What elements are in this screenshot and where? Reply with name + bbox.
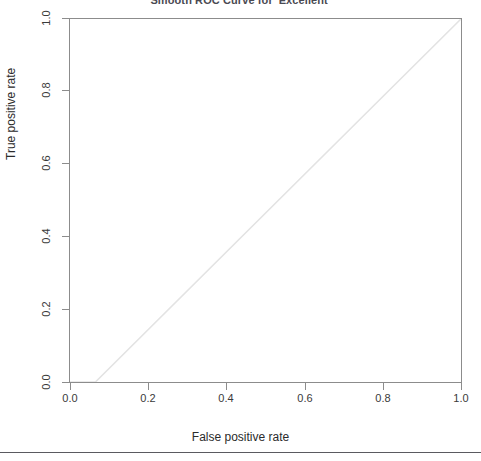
x-tick-5 (461, 383, 462, 390)
y-tick-5 (62, 18, 69, 19)
y-tick-label-2: 0.4 (40, 228, 52, 243)
bottom-divider (0, 452, 481, 453)
roc-curve-plot (70, 19, 461, 382)
x-tick-0 (70, 383, 71, 390)
y-tick-label-1: 0.2 (40, 301, 52, 316)
y-tick-label-0: 0.0 (40, 374, 52, 389)
y-tick-4 (62, 90, 69, 91)
y-tick-2 (62, 236, 69, 237)
x-tick-label-2: 0.4 (218, 392, 233, 404)
x-tick-4 (383, 383, 384, 390)
x-tick-1 (148, 383, 149, 390)
y-tick-label-5: 1.0 (40, 10, 52, 25)
x-axis-label: False positive rate (0, 430, 481, 444)
plot-panel (69, 18, 462, 383)
x-tick-label-0: 0.0 (62, 392, 77, 404)
y-tick-label-4: 0.8 (40, 82, 52, 97)
chart-title: Smooth ROC Curve for 'Excellent' (0, 0, 481, 6)
x-tick-label-1: 0.2 (140, 392, 155, 404)
y-tick-label-3: 0.6 (40, 155, 52, 170)
x-tick-label-5: 1.0 (453, 392, 468, 404)
x-tick-3 (305, 383, 306, 390)
x-tick-label-3: 0.6 (297, 392, 312, 404)
y-tick-0 (62, 382, 69, 383)
roc-curve-line (70, 19, 461, 382)
y-tick-1 (62, 309, 69, 310)
roc-chart-figure: Smooth ROC Curve for 'Excellent' 0.0 0.2… (0, 0, 481, 461)
x-tick-label-4: 0.8 (375, 392, 390, 404)
y-tick-3 (62, 163, 69, 164)
x-tick-2 (226, 383, 227, 390)
y-axis-label: True positive rate (4, 140, 18, 160)
